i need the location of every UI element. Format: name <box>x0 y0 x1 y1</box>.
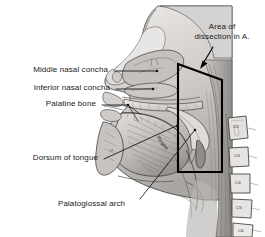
callout-line-2: dissection in A. <box>195 32 250 41</box>
label-middle-nasal-concha: Middle nasal concha <box>4 65 108 75</box>
label-vertebra-c5: C5 <box>236 205 242 210</box>
label-palatine-bone: Palatine bone <box>4 99 96 109</box>
label-vertebra-c4: C4 <box>235 180 241 185</box>
label-vertebra-c2: C2 <box>233 124 239 129</box>
label-palatoglossal-arch: Palatoglossal arch <box>58 199 125 209</box>
label-inferior-nasal-concha: Inferior nasal concha <box>4 83 110 93</box>
callout-area-of-dissection: Area of dissection in A. <box>186 22 258 41</box>
callout-line-1: Area of <box>209 22 236 31</box>
label-dorsum-of-tongue: Dorsum of tongue <box>4 153 98 163</box>
label-vertebra-c6: C6 <box>238 228 244 233</box>
anatomy-figure: M. <box>0 0 265 237</box>
svg-text:M.: M. <box>109 147 114 153</box>
label-vertebra-c3: C3 <box>234 153 240 158</box>
